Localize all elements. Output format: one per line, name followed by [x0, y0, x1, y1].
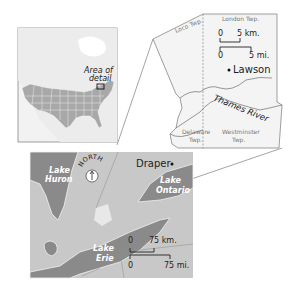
detail-scale-mi-label: 5 mi. [249, 51, 269, 60]
detail-map: Loco Twp. London Twp. Delaware Twp. West… [153, 14, 282, 148]
westminster-twp-label-2: Twp. [231, 136, 245, 144]
lake-erie-label-2: Erie [96, 254, 114, 263]
draper-site-marker [171, 163, 174, 166]
draper-label: Draper [136, 158, 171, 169]
regional-scale-km-zero: 0 [128, 236, 133, 245]
lawson-site-marker [228, 69, 231, 72]
inset-map: Area of detail [18, 28, 117, 142]
lake-erie-label-1: Lake [93, 244, 115, 253]
detail-scale-km-label: 5 km. [237, 29, 260, 38]
regional-map: NORTH Lake Huron Lake Ontario Lake Erie … [30, 152, 193, 278]
delaware-twp-label-1: Delaware [182, 128, 211, 135]
delaware-twp-label-2: Twp. [188, 136, 202, 144]
lake-ontario-label-2: Ontario [156, 186, 190, 195]
regional-scale-mi-zero: 0 [128, 261, 133, 270]
area-of-detail-label-2: detail [89, 74, 112, 83]
westminster-twp-label-1: Westminster [222, 128, 260, 135]
lake-ontario-label-1: Lake [160, 176, 182, 185]
map-figure: Area of detail Loco Twp. London Twp. Del… [0, 0, 293, 290]
regional-scale-mi-label: 75 mi. [164, 261, 189, 270]
regional-scale-km-label: 75 km. [149, 236, 177, 245]
detail-scale-mi-zero: 0 [218, 51, 223, 60]
lawson-label: Lawson [233, 64, 271, 75]
lake-huron-label-2: Huron [45, 175, 73, 184]
london-twp-label: London Twp. [222, 15, 259, 23]
detail-scale-km-zero: 0 [218, 29, 223, 38]
lake-huron-label-1: Lake [49, 166, 71, 175]
